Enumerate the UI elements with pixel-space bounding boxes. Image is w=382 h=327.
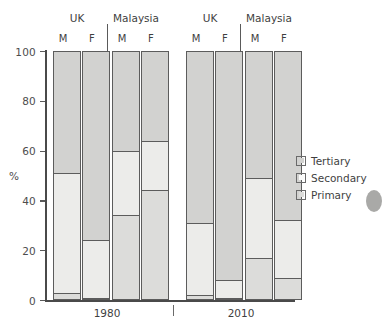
legend-item-secondary[interactable]: Secondary [296,169,367,186]
segment-tertiary [82,51,110,240]
plot-area [46,51,294,300]
segment-primary [141,190,169,300]
sex-label-2010-malaysia-f: F [281,33,287,44]
segment-secondary [141,141,169,191]
group-header-2010-malaysia: Malaysia [246,12,292,24]
y-tick-40: 40 [40,200,45,201]
legend-swatch-tertiary-icon [296,156,306,166]
x-axis-line [45,300,295,302]
y-tick-label-20: 20 [22,245,36,257]
segment-tertiary [215,51,243,280]
segment-primary [53,293,81,300]
y-tick-0: 0 [40,300,45,301]
sex-label-1980-malaysia-m: M [118,33,127,44]
y-tick-label-40: 40 [22,195,36,207]
y-tick-80: 80 [40,101,45,102]
sex-label-1980-uk-f: F [89,33,95,44]
segment-primary [186,295,214,300]
legend-label-tertiary: Tertiary [311,155,350,167]
sex-label-2010-uk-m: M [192,33,201,44]
group-header-2010-uk: UK [203,12,218,24]
sex-label-1980-malaysia-f: F [148,33,154,44]
segment-tertiary [112,51,140,151]
period-label-1980: 1980 [94,307,121,319]
legend-label-primary: Primary [311,189,352,201]
sex-label-2010-uk-f: F [222,33,228,44]
legend-swatch-primary-icon [296,190,306,200]
segment-primary [215,298,243,300]
y-tick-100: 100 [40,51,45,52]
segment-secondary [112,151,140,216]
group-header-1980-malaysia: Malaysia [113,12,159,24]
segment-tertiary [186,51,214,223]
segment-tertiary [53,51,81,173]
y-tick-label-80: 80 [22,95,36,107]
y-tick-20: 20 [40,250,45,251]
segment-secondary [186,223,214,295]
group-header-1980-uk: UK [70,12,85,24]
segment-secondary [82,240,110,297]
legend-swatch-secondary-icon [296,173,306,183]
period-divider [173,305,174,316]
sex-label-1980-uk-m: M [59,33,68,44]
segment-primary [274,278,302,300]
y-axis-unit-label: % [9,170,19,182]
period-label-2010: 2010 [228,307,255,319]
page-edge-artifact [366,190,382,212]
legend-label-secondary: Secondary [311,172,367,184]
y-tick-60: 60 [40,151,45,152]
legend-item-primary[interactable]: Primary [296,186,367,203]
segment-primary [245,258,273,300]
segment-primary [82,298,110,300]
segment-tertiary [141,51,169,141]
y-tick-label-100: 100 [15,46,36,58]
segment-secondary [245,178,273,258]
segment-secondary [274,220,302,277]
segment-primary [112,215,140,300]
legend: Tertiary Secondary Primary [296,152,367,203]
segment-tertiary [245,51,273,178]
group-divider-2010 [240,24,241,52]
sex-label-2010-malaysia-m: M [251,33,260,44]
y-tick-label-0: 0 [29,295,36,307]
legend-item-tertiary[interactable]: Tertiary [296,152,367,169]
group-divider-1980 [107,24,108,52]
y-tick-label-60: 60 [22,145,36,157]
segment-secondary [53,173,81,293]
segment-secondary [215,280,243,297]
